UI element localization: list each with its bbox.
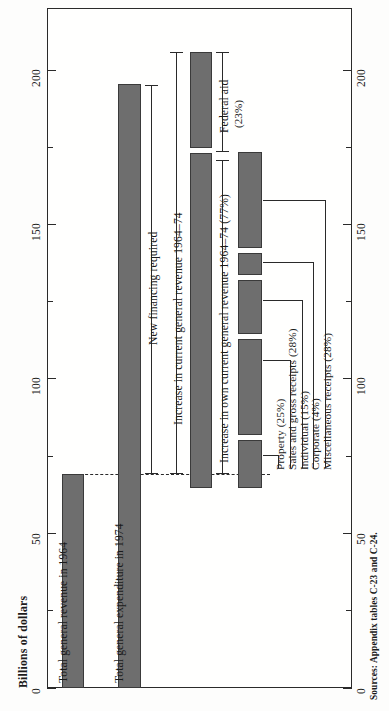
tick-right-75 — [346, 456, 352, 457]
tick-label-left-100: 100 — [31, 377, 43, 395]
bar-label-expenditure-1974: Total general expenditure in 1974 — [114, 523, 126, 683]
chart-page: Billions of dollars 0 50 100 150 200 0 5… — [0, 0, 389, 711]
bracket-new-financing-cap-bottom — [145, 473, 158, 474]
leader-individual-horizontal — [263, 300, 303, 301]
tick-left-25 — [47, 610, 53, 611]
leader-miscellaneous-horizontal — [263, 200, 326, 201]
segment-label-property: Property (25%) — [275, 399, 286, 470]
bar-segment-miscellaneous-receipts — [238, 152, 262, 248]
tick-label-left-150: 150 — [31, 223, 43, 241]
bracket-increase-own-cap-top — [216, 160, 229, 161]
tick-left-175 — [47, 147, 53, 148]
bar-segment-property — [238, 440, 262, 488]
tick-right-25 — [346, 610, 352, 611]
tick-left-150 — [47, 224, 56, 225]
tick-label-right-50: 50 — [356, 533, 368, 545]
bar-label-revenue-1964: Total general revenue in 1964 — [58, 542, 70, 683]
tick-left-100 — [47, 378, 56, 379]
bar-segment-individual — [238, 280, 262, 334]
tick-left-0 — [47, 688, 56, 689]
segment-label-corporate: Corporate (4%) — [310, 398, 321, 470]
tick-right-100 — [343, 378, 352, 379]
annotation-new-financing-required: New financing required — [148, 232, 160, 345]
bracket-increase-own-cap-bottom — [216, 473, 229, 474]
annotation-federal-aid-percent: (23%) — [233, 100, 244, 128]
tick-right-175 — [346, 147, 352, 148]
tick-label-left-50: 50 — [31, 533, 43, 545]
annotation-increase-current-general-revenue: Increase in current general revenue 1964… — [173, 212, 185, 425]
tick-left-75 — [47, 456, 53, 457]
source-note: Sources: Appendix tables C-23 and C-24. — [370, 532, 379, 700]
tick-label-left-0: 0 — [31, 688, 43, 694]
tick-left-50 — [47, 533, 56, 534]
bracket-increase-current-cap-bottom — [170, 473, 183, 474]
bar-segment-own-current-general-revenue — [190, 153, 212, 488]
tick-right-50 — [343, 533, 352, 534]
bracket-increase-current-cap-top — [170, 52, 183, 53]
tick-label-left-200: 200 — [31, 69, 43, 87]
bracket-federal-aid-cap-bottom — [216, 151, 229, 152]
tick-label-right-150: 150 — [356, 223, 368, 241]
segment-label-miscellaneous-receipts: Miscellaneous receipts (28%) — [322, 333, 333, 470]
annotation-federal-aid: Federal aid — [219, 80, 231, 133]
segment-label-sales-and-gross-receipts: Sales and gross receipts (28%) — [287, 328, 298, 470]
annotation-increase-own-current-general-revenue: Increase in own current general revenue … — [219, 194, 231, 463]
bar-segment-federal-aid — [190, 52, 212, 148]
bar-segment-sales-and-gross-receipts — [238, 339, 262, 435]
bracket-federal-aid-cap-top — [216, 52, 229, 53]
tick-left-125 — [47, 301, 53, 302]
tick-right-200 — [343, 70, 352, 71]
tick-right-0 — [343, 688, 352, 689]
axis-title-billions: Billions of dollars — [18, 596, 30, 688]
tick-right-150 — [343, 224, 352, 225]
tick-label-right-200: 200 — [356, 69, 368, 87]
tick-label-right-0: 0 — [356, 688, 368, 694]
bar-segment-corporate — [238, 253, 262, 275]
bracket-new-financing-cap-top — [145, 85, 158, 86]
tick-label-right-100: 100 — [356, 377, 368, 395]
leader-corporate-horizontal — [263, 262, 314, 263]
tick-left-200 — [47, 70, 56, 71]
tick-right-125 — [346, 301, 352, 302]
